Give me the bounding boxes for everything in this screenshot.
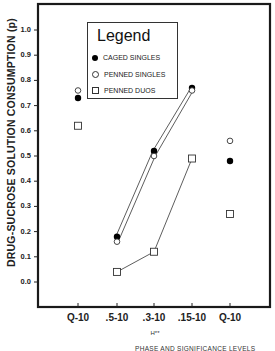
y-tick-label: 0.0 — [11, 277, 31, 286]
series-line — [118, 90, 193, 241]
open-square-icon — [92, 87, 99, 94]
filled-circle-marker — [75, 95, 81, 101]
x-tick-label: Q-10 — [67, 312, 89, 323]
open-square-marker — [114, 268, 121, 275]
x-tick-label: .5-10 — [106, 312, 129, 323]
legend-item-penned-singles: PENNED SINGLES — [92, 71, 165, 78]
y-tick-label: 1.0 — [11, 25, 31, 34]
y-tick-label: 0.4 — [11, 176, 31, 185]
y-tick-label: 0.8 — [11, 75, 31, 84]
y-tick-label: 0.5 — [11, 151, 31, 160]
open-square-marker — [151, 248, 158, 255]
legend-item-penned-duos: PENNED DUOS — [92, 87, 155, 94]
x-tick-label: .3-10 — [143, 312, 166, 323]
legend: Legend CAGED SINGLES PENNED SINGLES PENN… — [87, 22, 178, 99]
x-axis-label: PHASE AND SIGNIFICANCE LEVELS — [135, 345, 255, 351]
filled-circle-marker — [227, 158, 233, 164]
y-tick-label: 0.3 — [11, 201, 31, 210]
y-tick-label: 0.9 — [11, 50, 31, 59]
open-circle-icon — [92, 71, 99, 78]
filled-circle-icon — [92, 55, 98, 61]
series-line — [116, 88, 191, 237]
open-circle-marker — [114, 239, 120, 245]
open-square-marker — [227, 210, 234, 217]
y-tick-label: 0.2 — [11, 227, 31, 236]
legend-item-caged-singles: CAGED SINGLES — [92, 54, 160, 61]
y-tick-label: 0.7 — [11, 101, 31, 110]
open-circle-marker — [189, 88, 195, 94]
y-tick-label: 0.1 — [11, 252, 31, 261]
x-tick-label: .15-10 — [178, 312, 206, 323]
open-circle-marker — [75, 88, 81, 94]
y-axis-label: DRUG-SUCROSE SOLUTION CONSUMPTION (p) — [5, 67, 19, 267]
y-tick-label: 0.6 — [11, 126, 31, 135]
x-tick-label: Q-10 — [219, 312, 241, 323]
open-circle-marker — [151, 153, 157, 159]
x-sub-label: H** — [150, 330, 159, 336]
open-square-marker — [75, 122, 82, 129]
open-square-marker — [189, 155, 196, 162]
legend-title: Legend — [97, 27, 150, 45]
open-circle-marker — [227, 138, 233, 144]
